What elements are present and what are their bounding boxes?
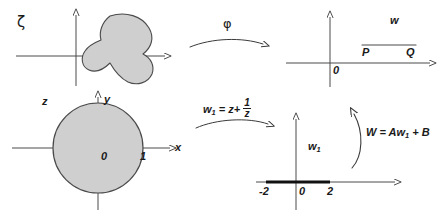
zeta-plane-label: ζ: [17, 15, 25, 30]
joukowski-lhs-sub: 1: [212, 108, 216, 117]
joukowski-eq: =: [219, 103, 225, 115]
w-plane-point-q-label: Q: [406, 47, 415, 58]
w-plane-label: w: [390, 15, 399, 26]
w1-plane-label: w1: [308, 141, 321, 153]
w-plane-origin-label: 0: [333, 65, 339, 76]
affine-map-label: W = Aw1 + B: [366, 127, 430, 139]
z-plane-unit-label: 1: [140, 151, 146, 162]
w1-plane-left-tick-label: -2: [259, 186, 269, 197]
joukowski-map-arrow: [196, 120, 268, 128]
affine-coefficient-a: A: [389, 126, 397, 138]
w1-plane-right-tick-label: 2: [327, 186, 333, 197]
joukowski-lhs: w: [203, 103, 212, 115]
affine-variable-w: w: [397, 126, 406, 138]
w-plane-point-p-label: P: [362, 47, 369, 58]
z-plane-origin-label: 0: [101, 151, 107, 162]
w1-plane-label-sub: 1: [317, 145, 321, 154]
joukowski-fraction: 1z: [243, 98, 251, 120]
conformal-mapping-figure: ζ φ w P Q 0 z y x 0 1 w1 = z+ 1z w1 -2 0…: [0, 0, 444, 217]
z-plane-x-axis-label: x: [175, 142, 181, 153]
affine-variable-w-sub: 1: [405, 131, 409, 140]
affine-lhs: W: [366, 126, 376, 138]
affine-eq: =: [379, 126, 385, 138]
phi-map-label: φ: [223, 17, 232, 30]
z-plane-y-axis-label: y: [104, 94, 110, 105]
affine-constant-b: B: [422, 126, 430, 138]
z-plane-label: z: [42, 96, 48, 107]
joukowski-map-label: w1 = z+ 1z: [203, 98, 251, 120]
joukowski-fraction-denominator: z: [243, 109, 251, 119]
z-plane-unit-disk: [53, 103, 143, 193]
joukowski-plus: +: [234, 103, 240, 115]
w1-plane-label-base: w: [308, 140, 317, 152]
affine-plus: +: [412, 126, 418, 138]
phi-map-arrow: [190, 39, 263, 47]
w1-plane-origin-label: 0: [299, 186, 305, 197]
affine-map-arrow: [352, 114, 361, 168]
zeta-blob-region: [82, 14, 153, 84]
